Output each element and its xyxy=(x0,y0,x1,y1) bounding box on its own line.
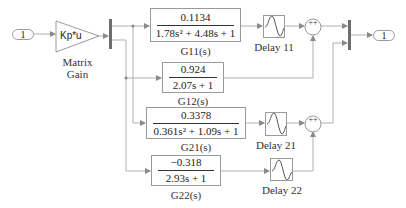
demux-block[interactable] xyxy=(109,19,112,49)
g21-numerator: 0.3378 xyxy=(177,109,215,122)
g11-label: G11(s) xyxy=(150,45,241,57)
fraction-bar xyxy=(158,170,214,171)
fraction-bar xyxy=(153,123,239,124)
tf-block-g12[interactable]: 0.924 2.07s + 1 xyxy=(162,62,224,93)
g22-label: G22(s) xyxy=(151,189,221,201)
g21-denominator: 0.361s² + 1.09s + 1 xyxy=(150,125,243,138)
delay-22-label: Delay 22 xyxy=(256,184,308,196)
g12-label: G12(s) xyxy=(162,95,224,107)
g11-denominator: 1.78s² + 4.48s + 1 xyxy=(152,27,239,40)
tf-block-g11[interactable]: 0.1134 1.78s² + 4.48s + 1 xyxy=(150,8,241,42)
tf-block-g21[interactable]: 0.3378 0.361s² + 1.09s + 1 xyxy=(146,107,246,139)
sum-2-signs: ++ xyxy=(308,115,317,124)
fraction-bar xyxy=(157,25,234,26)
outport-label: 1 xyxy=(382,30,387,41)
mux-block[interactable] xyxy=(348,20,351,50)
delay-11-block[interactable] xyxy=(263,15,285,38)
g22-numerator: −0.318 xyxy=(167,156,206,169)
gain-label-line2: Gain xyxy=(56,68,99,80)
sum-1-block[interactable]: ++ xyxy=(305,19,321,27)
g11-numerator: 0.1134 xyxy=(177,11,215,24)
inport-1[interactable]: 1 xyxy=(12,29,34,40)
outport-1[interactable]: 1 xyxy=(373,30,395,41)
delay-21-block[interactable] xyxy=(265,112,287,136)
matrix-gain-block[interactable] xyxy=(56,21,99,52)
g12-numerator: 0.924 xyxy=(177,63,210,76)
delay-21-label: Delay 21 xyxy=(250,139,302,151)
g22-denominator: 2.93s + 1 xyxy=(162,172,211,185)
g12-denominator: 2.07s + 1 xyxy=(169,79,218,92)
gain-label-line1: Matrix xyxy=(56,56,99,68)
tf-block-g22[interactable]: −0.318 2.93s + 1 xyxy=(151,155,221,186)
g21-label: G21(s) xyxy=(146,141,246,153)
delay-22-block[interactable] xyxy=(270,158,293,181)
sum-1-signs: ++ xyxy=(308,18,317,27)
fraction-bar xyxy=(169,77,217,78)
sum-2-block[interactable]: ++ xyxy=(305,116,321,124)
inport-label: 1 xyxy=(21,29,26,40)
delay-11-label: Delay 11 xyxy=(248,41,300,53)
